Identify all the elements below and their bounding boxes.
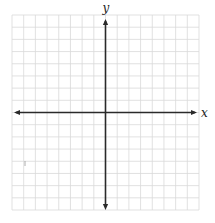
- x-axis-label: x: [201, 106, 208, 120]
- y-axis-arrow-down-icon: [103, 204, 108, 210]
- coordinate-plane: x y: [0, 0, 215, 223]
- axes: [14, 19, 197, 210]
- x-axis-arrow-right-icon: [191, 110, 197, 115]
- x-axis-arrow-left-icon: [14, 110, 20, 115]
- coordinate-plane-svg: x y: [0, 0, 215, 223]
- y-axis-arrow-up-icon: [103, 19, 108, 25]
- y-axis-label: y: [102, 1, 110, 15]
